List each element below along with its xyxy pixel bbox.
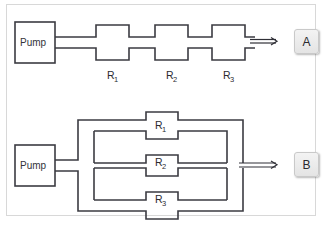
diagram-a-group: Pump R 1 R 2 R 3 bbox=[15, 22, 277, 84]
diagram-a-badge[interactable]: A bbox=[294, 29, 319, 54]
diagram-b-group: Pump R 1 R 2 R 3 bbox=[15, 112, 277, 219]
circuit-diagram-svg: Pump R 1 R 2 R 3 Pump bbox=[0, 0, 329, 247]
diagram-a-flow-arrow-icon bbox=[271, 38, 277, 46]
diagram-a-resistor-1-subscript: 1 bbox=[114, 75, 118, 84]
diagram-b-resistor-2-subscript: 2 bbox=[162, 162, 166, 171]
diagram-b-badge-label: B bbox=[302, 158, 310, 172]
diagram-b-badge[interactable]: B bbox=[294, 152, 319, 177]
diagram-b-resistor-3-subscript: 3 bbox=[162, 199, 166, 208]
diagram-a-bottom-pipe-wall bbox=[55, 48, 255, 60]
diagram-b-pump-label: Pump bbox=[20, 160, 47, 171]
diagram-a-badge-label: A bbox=[302, 35, 310, 49]
diagram-a-top-pipe-wall bbox=[55, 25, 255, 37]
diagram-b-resistor-1-subscript: 1 bbox=[162, 125, 166, 134]
figure-root: Pump R 1 R 2 R 3 Pump bbox=[0, 0, 329, 247]
diagram-a-pump-label: Pump bbox=[20, 37, 47, 48]
diagram-a-resistor-2-subscript: 2 bbox=[173, 75, 177, 84]
diagram-a-resistor-3-subscript: 3 bbox=[230, 75, 234, 84]
diagram-b-inner-wall-3 bbox=[94, 168, 227, 176]
